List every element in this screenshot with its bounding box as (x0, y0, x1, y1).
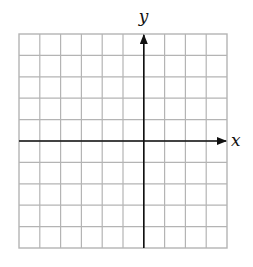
y-axis-label: y (138, 6, 149, 26)
coordinate-plane: x y (0, 0, 253, 267)
x-axis-label: x (231, 130, 241, 150)
